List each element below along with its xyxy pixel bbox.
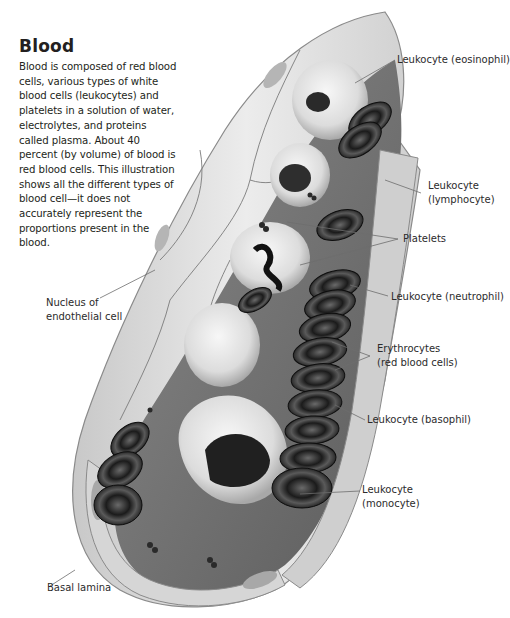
label-line: endothelial cell xyxy=(46,310,122,324)
label-line: (red blood cells) xyxy=(377,356,458,370)
label-line: (monocyte) xyxy=(362,497,420,511)
label-line: Leukocyte xyxy=(428,179,495,193)
label-line: Leukocyte (eosinophil) xyxy=(397,53,510,67)
label-line: Basal lamina xyxy=(47,581,111,595)
label-line: Leukocyte (basophil) xyxy=(367,413,471,427)
intro-paragraph: Blood is composed of red blood cells, va… xyxy=(19,60,177,251)
label-line: Erythrocytes xyxy=(377,342,458,356)
label-line: Leukocyte xyxy=(362,483,420,497)
page-title: Blood xyxy=(19,36,74,56)
label-basophil: Leukocyte (basophil) xyxy=(367,413,471,427)
label-line: Nucleus of xyxy=(46,296,122,310)
label-line: Platelets xyxy=(403,232,446,246)
label-endothelial-nucleus: Nucleus of endothelial cell xyxy=(46,296,122,323)
label-lymphocyte: Leukocyte (lymphocyte) xyxy=(428,179,495,206)
label-basal-lamina: Basal lamina xyxy=(47,581,111,595)
label-monocyte: Leukocyte (monocyte) xyxy=(362,483,420,510)
label-platelets: Platelets xyxy=(403,232,446,246)
label-line: Leukocyte (neutrophil) xyxy=(391,290,504,304)
label-neutrophil: Leukocyte (neutrophil) xyxy=(391,290,504,304)
label-erythrocytes: Erythrocytes (red blood cells) xyxy=(377,342,458,369)
label-eosinophil: Leukocyte (eosinophil) xyxy=(397,53,510,67)
label-line: (lymphocyte) xyxy=(428,193,495,207)
